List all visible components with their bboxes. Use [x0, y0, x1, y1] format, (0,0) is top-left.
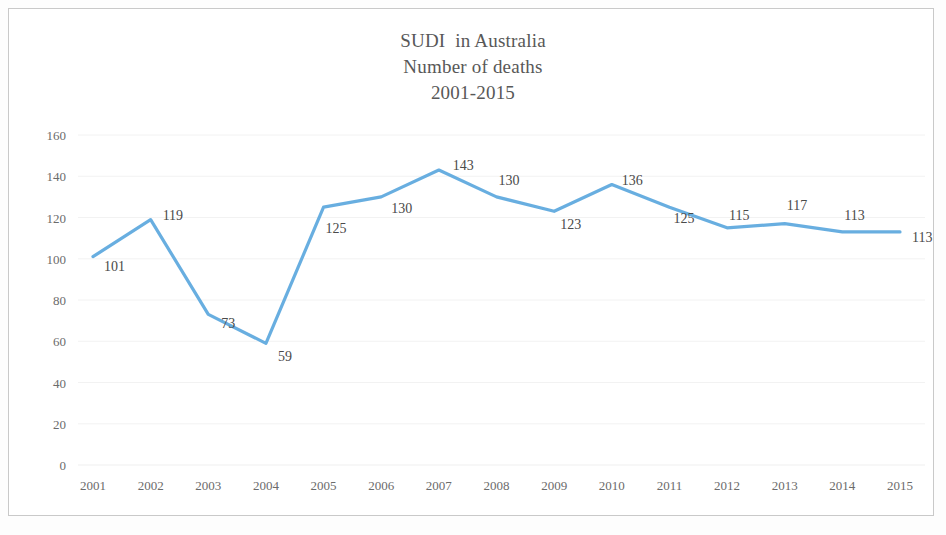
y-axis-tick-label: 120: [22, 212, 66, 225]
x-axis-tick-label: 2011: [645, 479, 693, 492]
x-axis-tick-label: 2002: [127, 479, 175, 492]
y-axis-tick-label: 80: [22, 294, 66, 307]
data-point-label: 59: [278, 350, 292, 364]
data-point-label: 136: [622, 174, 643, 188]
data-point-label: 125: [326, 222, 347, 236]
data-point-label: 113: [844, 209, 864, 223]
y-axis-tick-label: 160: [22, 129, 66, 142]
x-axis-tick-label: 2015: [876, 479, 924, 492]
x-axis-tick-label: 2003: [184, 479, 232, 492]
y-axis-tick-label: 100: [22, 253, 66, 266]
data-point-label: 119: [163, 209, 183, 223]
data-point-label: 130: [499, 174, 520, 188]
data-point-label: 117: [787, 199, 807, 213]
x-axis-tick-label: 2014: [818, 479, 866, 492]
y-axis-tick-label: 0: [22, 459, 66, 472]
data-point-label: 130: [391, 202, 412, 216]
x-axis-tick-label: 2012: [703, 479, 751, 492]
data-point-label: 101: [104, 260, 125, 274]
x-axis-tick-label: 2009: [530, 479, 578, 492]
x-axis-tick-label: 2013: [761, 479, 809, 492]
data-series-line: [93, 170, 900, 343]
chart-page: SUDI in Australia Number of deaths 2001-…: [0, 0, 946, 535]
x-axis-tick-label: 2007: [415, 479, 463, 492]
x-axis-tick-label: 2008: [473, 479, 521, 492]
data-point-label: 143: [453, 159, 474, 173]
x-axis-tick-label: 2004: [242, 479, 290, 492]
x-axis-tick-label: 2001: [69, 479, 117, 492]
data-point-label: 123: [560, 218, 581, 232]
data-point-label: 113: [912, 231, 932, 245]
y-axis-tick-label: 40: [22, 377, 66, 390]
line-chart-svg: [0, 0, 946, 535]
data-point-label: 73: [221, 317, 235, 331]
x-axis-tick-label: 2005: [300, 479, 348, 492]
x-axis-tick-label: 2010: [588, 479, 636, 492]
chart-plot-area: 020406080100120140160 200120022003200420…: [0, 0, 946, 535]
data-point-label: 125: [673, 212, 694, 226]
y-axis-tick-label: 60: [22, 335, 66, 348]
data-point-label: 115: [729, 209, 749, 223]
y-axis-tick-label: 140: [22, 170, 66, 183]
x-axis-tick-label: 2006: [357, 479, 405, 492]
y-axis-tick-label: 20: [22, 418, 66, 431]
